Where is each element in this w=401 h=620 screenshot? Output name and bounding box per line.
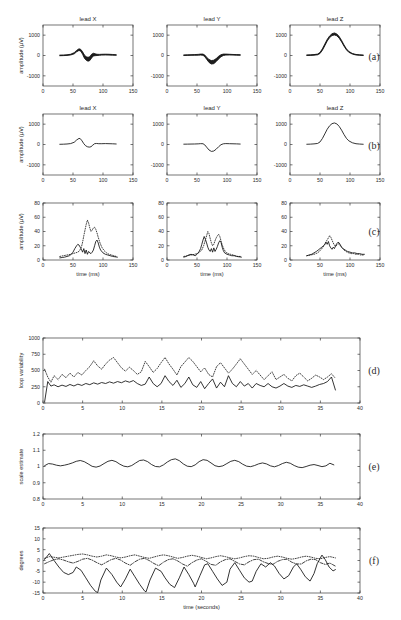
y-tick-label: 0 [161,257,164,263]
y-tick-label: 80 [281,200,287,206]
y-tick-label: 1000 [152,121,164,127]
x-axis-label: time (ms) [76,271,99,277]
series-band-edge [307,33,363,55]
x-tick-label: 10 [119,501,125,507]
series-solid [307,123,363,144]
y-tick-label: 1 [37,463,40,469]
y-tick-label: 0 [37,257,40,263]
y-axis-label: amplitude (µV) [18,126,24,163]
y-tick-label: 5 [37,547,40,553]
y-tick-label: 0 [284,141,287,147]
x-tick-label: 0 [42,177,45,183]
x-tick-label: 0 [42,501,45,507]
figure-container: 050100150-100001000lead Xamplitude (µV)0… [0,0,401,620]
series-dotted [184,232,240,257]
x-tick-label: 15 [159,405,165,411]
y-tick-label: 60 [34,214,40,220]
x-tick-label: 100 [99,262,108,268]
series-band-edge [60,49,116,58]
y-tick-label: 1000 [28,121,40,127]
series-band [307,33,363,56]
axes-b-lead-x: 050100150-100001000lead Xamplitude (µV) [18,105,137,183]
panel-title: lead X [79,16,96,22]
x-tick-label: 100 [99,177,108,183]
y-tick-label: 40 [158,228,164,234]
x-tick-label: 15 [159,501,165,507]
x-tick-label: 150 [129,262,138,268]
x-tick-label: 40 [357,501,363,507]
y-tick-label: 0 [37,400,40,406]
x-tick-label: 5 [81,595,84,601]
axes-a-lead-x: 050100150-100001000lead Xamplitude (µV) [18,16,137,94]
x-tick-label: 50 [317,177,323,183]
plot-frame [43,434,360,499]
y-tick-label: -1000 [274,162,287,168]
x-tick-label: 150 [376,88,385,94]
x-tick-label: 150 [376,262,385,268]
plot-frame [43,114,133,175]
figure-svg: 050100150-100001000lead Xamplitude (µV)0… [0,0,401,620]
y-tick-label: 60 [281,214,287,220]
x-tick-label: 100 [223,177,232,183]
x-tick-label: 30 [278,595,284,601]
y-tick-label: 0 [161,52,164,58]
y-axis-label: amplitude (µV) [18,213,24,250]
panel-title: lead Z [327,105,344,111]
x-tick-label: 35 [317,405,323,411]
x-tick-label: 50 [194,88,200,94]
x-tick-label: 20 [199,595,205,601]
y-tick-label: 20 [158,243,164,249]
x-tick-label: 35 [317,595,323,601]
x-tick-label: 0 [166,177,169,183]
x-tick-label: 50 [317,262,323,268]
y-tick-label: -1000 [151,73,164,79]
series-dotted [60,220,116,256]
x-axis-label: time (seconds) [183,604,220,610]
panel-letter: (c) [368,226,379,238]
x-tick-label: 150 [376,177,385,183]
panel-title: lead Y [204,16,221,22]
x-tick-label: 100 [346,88,355,94]
x-tick-label: 20 [199,501,205,507]
x-tick-label: 50 [70,177,76,183]
y-tick-label: -1000 [274,73,287,79]
x-tick-label: 150 [253,88,262,94]
series-dashdot [45,558,336,566]
y-tick-label: 0 [284,52,287,58]
panel-letter: (d) [368,365,380,377]
y-tick-label: 250 [31,384,40,390]
panel-letter: (b) [368,140,380,152]
series-solid [60,138,116,147]
x-tick-label: 5 [81,405,84,411]
plot-frame [290,203,380,260]
x-tick-label: 100 [346,262,355,268]
y-tick-label: 20 [34,243,40,249]
panel-title: lead Y [204,105,221,111]
x-tick-label: 50 [194,177,200,183]
y-axis-label: degrees [18,550,24,570]
panel-letter: (f) [369,555,379,567]
y-axis-label: amplitude (µV) [18,37,24,74]
y-tick-label: 10 [34,536,40,542]
y-tick-label: 40 [281,228,287,234]
y-tick-label: 80 [158,200,164,206]
y-tick-label: 500 [31,367,40,373]
y-tick-label: 40 [34,228,40,234]
x-tick-label: 150 [253,262,262,268]
panel-title: lead X [79,105,96,111]
y-tick-label: -1000 [27,162,40,168]
y-axis-label: scale estimate [18,449,24,485]
axes-e-scale-estimate: 05101520253035400.80.911.11.2scale estim… [18,431,363,507]
y-tick-label: 0.8 [33,496,40,502]
axes-a-lead-y: 050100150-100001000lead Y [151,16,262,94]
x-tick-label: 25 [238,595,244,601]
panel-letter: (e) [368,461,379,473]
y-tick-label: -10 [33,579,41,585]
x-tick-label: 25 [238,501,244,507]
x-axis-label: time (ms) [200,271,223,277]
x-tick-label: 50 [70,88,76,94]
y-tick-label: 80 [34,200,40,206]
axes-c-lead-x: 050100150020406080time (ms)amplitude (µV… [18,200,137,277]
series-solid [45,459,334,468]
y-tick-label: 0 [37,52,40,58]
